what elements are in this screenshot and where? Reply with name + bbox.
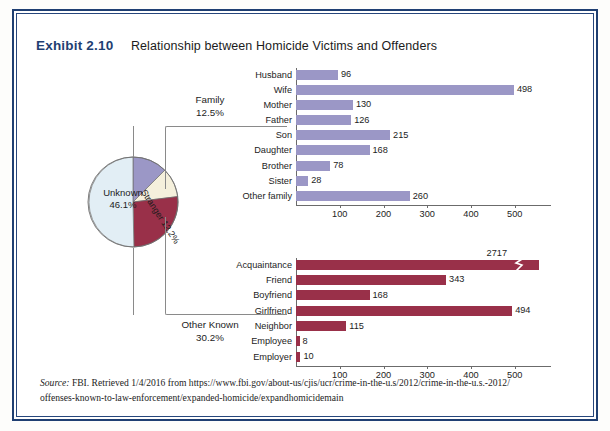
bar-chart-other-known: Acquaintance2717Friend343Boyfriend168Gir… [228, 258, 558, 386]
x-axis-tick [340, 366, 341, 369]
bar-track: 8 [296, 335, 558, 348]
bar-category-label: Husband [228, 70, 296, 80]
source-line-2: offenses-known-to-law-enforcement/expand… [40, 392, 344, 403]
bar-value-label: 130 [356, 98, 371, 111]
bar [296, 275, 446, 285]
exhibit-page: Exhibit 2.10 Relationship between Homici… [0, 0, 610, 431]
x-axis-tick [427, 205, 428, 208]
bar [296, 145, 370, 155]
x-axis-tick [515, 205, 516, 208]
bar-row: Daughter168 [228, 144, 558, 157]
x-axis-tick-label: 300 [420, 209, 435, 219]
bar-chart-family: Husband96Wife498Mother130Father126Son215… [228, 68, 558, 208]
callout-other-known-percent: 30.2% [196, 332, 224, 343]
bar-track: 260 [296, 190, 558, 203]
bar-track: 215 [296, 129, 558, 142]
bar [296, 161, 330, 171]
bar-value-label: 260 [413, 190, 428, 203]
bar-track: 168 [296, 144, 558, 157]
bar-row: Girlfriend494 [228, 304, 558, 317]
page-title: Relationship between Homicide Victims an… [131, 39, 437, 53]
bar-value-label: 8 [303, 335, 308, 348]
bar-value-label: 215 [393, 129, 408, 142]
x-axis-tick-label: 500 [507, 209, 522, 219]
bar-value-label: 126 [354, 114, 369, 127]
leader-line-family-stem [133, 126, 134, 157]
other-chart-bars: Acquaintance2717Friend343Boyfriend168Gir… [228, 258, 558, 363]
bar-value-label: 168 [373, 144, 388, 157]
bar-category-label: Employer [228, 352, 296, 362]
bar-track: 2717 [296, 258, 558, 271]
bar-track: 130 [296, 98, 558, 111]
bar-category-label: Brother [228, 161, 296, 171]
bar [296, 130, 390, 140]
bar-track: 78 [296, 159, 558, 172]
bar-category-label: Other family [228, 191, 296, 201]
bar-track: 168 [296, 289, 558, 302]
bar-row: Wife498 [228, 83, 558, 96]
bar-value-label: 498 [517, 83, 532, 96]
x-axis-tick [471, 366, 472, 369]
bar-value-label: 343 [449, 273, 464, 286]
x-axis-tick [515, 366, 516, 369]
bar [296, 306, 512, 316]
bar-track: 498 [296, 83, 558, 96]
bar [296, 336, 300, 346]
bar [296, 176, 308, 186]
pie-label-unknown-name: Unknown [103, 187, 143, 198]
bar-value-label: 78 [333, 159, 343, 172]
bar [296, 191, 410, 201]
bar [296, 85, 514, 95]
bar-row: Employee8 [228, 335, 558, 348]
bar-row: Other family260 [228, 190, 558, 203]
x-axis-tick [384, 366, 385, 369]
axis-break-marker-icon [513, 258, 525, 272]
bar-category-label: Friend [228, 275, 296, 285]
bar-value-label: 494 [515, 304, 530, 317]
bar [296, 260, 539, 270]
bar-row: Neighbor115 [228, 320, 558, 333]
x-axis-tick [384, 205, 385, 208]
bar-track: 96 [296, 68, 558, 81]
x-axis-tick [340, 205, 341, 208]
bar-category-label: Mother [228, 100, 296, 110]
callout-family-percent: 12.5% [196, 107, 224, 118]
bar-category-label: Son [228, 130, 296, 140]
x-axis-tick [471, 205, 472, 208]
pie-label-unknown-percent: 46.1% [110, 199, 137, 210]
source-prefix: Source: [40, 377, 69, 388]
bar-value-label: 115 [349, 320, 364, 333]
bar [296, 70, 338, 80]
bar-track: 494 [296, 304, 558, 317]
bar-value-label: 168 [373, 289, 388, 302]
bar-category-label: Boyfriend [228, 290, 296, 300]
x-axis-tick [427, 366, 428, 369]
bar-row: Boyfriend168 [228, 289, 558, 302]
bar-row: Son215 [228, 129, 558, 142]
bar-row: Mother130 [228, 98, 558, 111]
x-axis-line [296, 366, 551, 367]
bar-row: Father126 [228, 114, 558, 127]
bar-category-label: Father [228, 115, 296, 125]
source-note: Source: FBI. Retrieved 1/4/2016 from htt… [40, 376, 560, 406]
bar [296, 321, 346, 331]
bar-category-label: Employee [228, 336, 296, 346]
bar-row: Brother78 [228, 159, 558, 172]
bar-track: 115 [296, 320, 558, 333]
bar-row: Employer10 [228, 350, 558, 363]
x-axis-line [296, 205, 551, 206]
bar-category-label: Neighbor [228, 321, 296, 331]
bar [296, 290, 370, 300]
bar-row: Sister28 [228, 174, 558, 187]
bar-value-label: 28 [311, 174, 321, 187]
x-axis-tick-label: 200 [376, 209, 391, 219]
bar-category-label: Sister [228, 176, 296, 186]
leader-line-other-known-stem [133, 248, 134, 315]
bar-category-label: Girlfriend [228, 306, 296, 316]
bar-row: Husband96 [228, 68, 558, 81]
exhibit-header: Exhibit 2.10 Relationship between Homici… [36, 36, 556, 54]
exhibit-number: Exhibit 2.10 [36, 38, 113, 53]
bar [296, 100, 353, 110]
bar-row: Acquaintance2717 [228, 258, 558, 271]
source-line-1: FBI. Retrieved 1/4/2016 from https://www… [69, 377, 509, 388]
